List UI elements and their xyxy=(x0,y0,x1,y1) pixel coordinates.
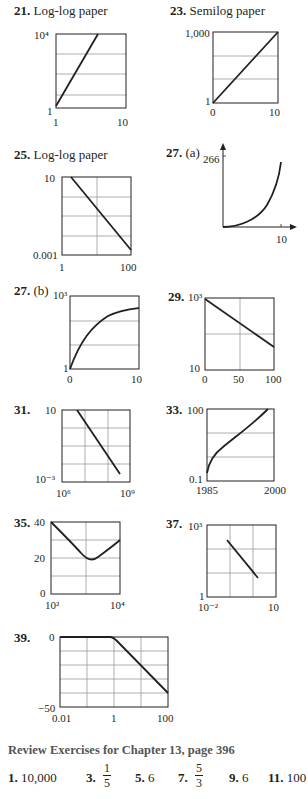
problem-31-label: 31. xyxy=(14,402,30,418)
p33-x-left: 1985 xyxy=(196,485,218,496)
p33-y-top: 100 xyxy=(187,405,204,416)
p31-y-bottom: 10⁻³ xyxy=(35,474,55,485)
p39-x-right: 100 xyxy=(157,713,174,724)
p35-y-top: 40 xyxy=(34,517,45,528)
p39-x-mid: 1 xyxy=(111,713,117,724)
p39-x-left: 0.01 xyxy=(52,713,71,724)
p27a-x-right: 10 xyxy=(276,234,287,245)
p27b-y-top: 10³ xyxy=(53,290,67,301)
problem-33-label: 33. xyxy=(166,402,182,418)
chart-37 xyxy=(207,525,276,597)
p27b-x-right: 10 xyxy=(131,374,142,385)
chart-21 xyxy=(56,34,126,108)
p23-y-top: 1,000 xyxy=(185,28,210,39)
review-heading: Review Exercises for Chapter 13, page 39… xyxy=(8,743,235,758)
chart-23 xyxy=(213,32,278,103)
answer-7-fraction: 53 xyxy=(195,762,203,789)
answer-7-num: 7. xyxy=(178,770,188,786)
chart-31 xyxy=(62,410,130,482)
p35-x-right: 10⁴ xyxy=(110,600,125,611)
p37-x-left: 10⁻² xyxy=(198,602,218,613)
p27b-x-left: 0 xyxy=(67,374,73,385)
chart-27b xyxy=(70,296,139,369)
answer-1: 1. 10,000 xyxy=(8,770,57,786)
p29-x-mid: 50 xyxy=(233,374,244,385)
p37-x-right: 10 xyxy=(268,602,279,613)
chart-35 xyxy=(51,522,120,594)
review-answers: 1. 10,000 3. 15 5. 6 7. 53 9. 6 11. 100 xyxy=(8,762,308,796)
p25-y-top: 10 xyxy=(44,173,55,184)
chart-39 xyxy=(60,637,168,707)
problem-27a-label: 27. (a) xyxy=(166,145,200,161)
answer-3-fraction: 15 xyxy=(103,762,111,789)
p29-y-bottom: 10 xyxy=(189,363,200,374)
p35-y-bottom: 0 xyxy=(40,588,46,599)
answer-9: 9. 6 xyxy=(229,770,249,786)
p27a-y-top: 266 xyxy=(203,154,220,165)
p21-y-bottom: 1 xyxy=(47,106,53,117)
chart-25 xyxy=(62,177,131,255)
p29-x-right: 100 xyxy=(265,374,282,385)
chart-27a xyxy=(222,143,302,233)
p25-x-left: 1 xyxy=(59,262,65,273)
problem-23-label: 23. Semilog paper xyxy=(170,3,265,19)
p25-x-right: 100 xyxy=(120,262,137,273)
answer-3-num: 3. xyxy=(86,770,96,786)
problem-21-label: 21. Log-log paper xyxy=(14,3,108,19)
p25-y-bottom: 0.001 xyxy=(33,250,58,261)
chart-33 xyxy=(207,409,274,481)
p23-x-right: 10 xyxy=(269,107,280,118)
problem-25-label: 25. Log-log paper xyxy=(14,147,108,163)
problem-29-label: 29. xyxy=(168,289,184,305)
p31-x-left: 10⁶ xyxy=(56,488,71,499)
p21-x-left: 1 xyxy=(53,117,59,128)
p21-x-right: 10 xyxy=(117,117,128,128)
p23-x-left: 0 xyxy=(210,107,216,118)
p37-y-top: 10³ xyxy=(188,521,202,532)
p31-y-top: 10 xyxy=(45,405,56,416)
chart-29 xyxy=(205,298,274,370)
answer-5: 5. 6 xyxy=(135,770,155,786)
problem-37-label: 37. xyxy=(166,516,182,532)
problem-27b-label: 27. (b) xyxy=(14,283,49,299)
problem-35-label: 35. xyxy=(14,515,30,531)
p29-y-top: 10³ xyxy=(188,292,202,303)
p39-y-top: 0 xyxy=(49,632,55,643)
p33-x-right: 2000 xyxy=(264,485,286,496)
answer-11: 11. 100 xyxy=(268,770,306,786)
p35-y-mid: 20 xyxy=(34,553,45,564)
problem-39-label: 39. xyxy=(14,630,30,646)
p21-y-top: 10⁴ xyxy=(34,30,49,41)
p35-x-left: 10² xyxy=(45,600,59,611)
p31-x-right: 10⁹ xyxy=(120,488,135,499)
p29-x-left: 0 xyxy=(202,374,208,385)
